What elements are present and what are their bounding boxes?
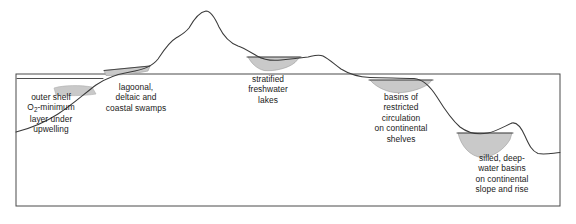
label-outer-shelf-line-3: layer under <box>8 114 94 124</box>
label-outer-shelf: outer shelf O2-minimum layer under upwel… <box>8 92 94 135</box>
label-silled-basins-line-3: on continental <box>452 174 552 184</box>
label-outer-shelf-line-2-post: -minimum <box>38 102 75 112</box>
label-lagoonal-line-1: lagoonal, <box>94 82 178 92</box>
label-lakes-line-1: stratified <box>228 74 308 84</box>
label-outer-shelf-line-2: O2-minimum <box>8 102 94 113</box>
label-silled-basins-line-2: water basins <box>452 163 552 173</box>
cross-section-figure: outer shelf O2-minimum layer under upwel… <box>0 0 576 224</box>
label-shelf-basins-line-4: on continental <box>352 123 450 133</box>
label-outer-shelf-line-4: upwelling <box>8 124 94 134</box>
label-shelf-basins-line-5: shelves <box>352 134 450 144</box>
label-stratified-lakes: stratified freshwater lakes <box>228 74 308 105</box>
label-lakes-line-3: lakes <box>228 95 308 105</box>
label-silled-basins: silled, deep- water basins on continenta… <box>452 153 552 195</box>
label-lagoonal-line-3: coastal swamps <box>94 103 178 113</box>
label-lakes-line-2: freshwater <box>228 84 308 94</box>
label-outer-shelf-line-1: outer shelf <box>8 92 94 102</box>
label-shelf-basins-line-2: restricted <box>352 102 450 112</box>
label-shelf-basins-line-1: basins of <box>352 92 450 102</box>
label-shelf-basins-line-3: circulation <box>352 113 450 123</box>
label-lagoonal: lagoonal, deltaic and coastal swamps <box>94 82 178 113</box>
label-outer-shelf-line-2-subscript: 2 <box>34 106 38 113</box>
label-silled-basins-line-1: silled, deep- <box>452 153 552 163</box>
label-lagoonal-line-2: deltaic and <box>94 92 178 102</box>
label-silled-basins-line-4: slope and rise <box>452 184 552 194</box>
label-outer-shelf-line-2-pre: O <box>27 102 34 112</box>
label-shelf-basins: basins of restricted circulation on cont… <box>352 92 450 144</box>
